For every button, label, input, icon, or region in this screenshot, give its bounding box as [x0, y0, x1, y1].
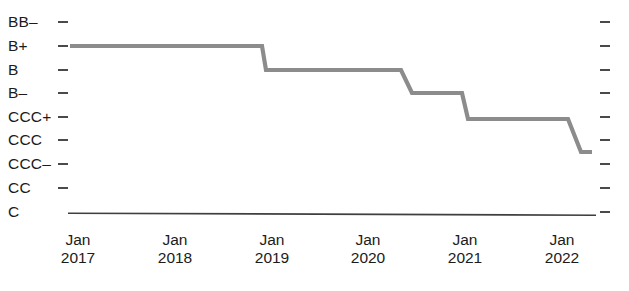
- x-axis-label-1-month: Jan: [158, 231, 192, 249]
- y-tick-mark-right-2: [600, 69, 610, 71]
- y-tick-mark-right-8: [600, 211, 610, 213]
- y-axis-label-3: B–: [8, 85, 27, 101]
- y-axis-label-4: CCC+: [8, 109, 51, 125]
- credit-rating-step-chart: BB– B+ B B– CCC+ CCC CCC– CC C Jan 2017 …: [0, 0, 629, 291]
- x-axis-label-2-month: Jan: [255, 231, 289, 249]
- y-tick-mark-right-6: [600, 163, 610, 165]
- y-tick-mark-left-2: [58, 69, 68, 71]
- x-axis-baseline: [68, 213, 596, 215]
- y-axis-label-0: BB–: [8, 14, 38, 30]
- y-tick-mark-left-0: [58, 21, 68, 23]
- x-axis-label-3: Jan 2020: [351, 231, 385, 268]
- x-axis-label-1-year: 2018: [158, 249, 192, 267]
- y-axis-label-2: B: [8, 62, 19, 78]
- y-tick-mark-right-5: [600, 139, 610, 141]
- x-axis-label-4-year: 2021: [448, 249, 482, 267]
- x-axis-label-4-month: Jan: [448, 231, 482, 249]
- y-axis-label-1: B+: [8, 38, 28, 54]
- y-tick-mark-left-4: [58, 116, 68, 118]
- y-tick-mark-left-7: [58, 187, 68, 189]
- y-tick-mark-right-7: [600, 187, 610, 189]
- x-axis-label-2-year: 2019: [255, 249, 289, 267]
- y-tick-mark-left-6: [58, 163, 68, 165]
- x-axis-label-3-year: 2020: [351, 249, 385, 267]
- y-tick-mark-left-3: [58, 92, 68, 94]
- x-axis-label-5-year: 2022: [545, 249, 579, 267]
- x-axis-label-5: Jan 2022: [545, 231, 579, 268]
- x-axis-label-1: Jan 2018: [158, 231, 192, 268]
- x-axis-label-3-month: Jan: [351, 231, 385, 249]
- y-axis-label-6: CCC–: [8, 156, 51, 172]
- rating-step-line: [70, 46, 592, 152]
- y-axis-label-8: C: [8, 204, 19, 220]
- x-axis-label-4: Jan 2021: [448, 231, 482, 268]
- y-tick-mark-left-1: [58, 45, 68, 47]
- y-axis-label-7: CC: [8, 180, 31, 196]
- y-tick-mark-right-1: [600, 45, 610, 47]
- y-tick-mark-right-3: [600, 92, 610, 94]
- x-axis-label-0: Jan 2017: [61, 231, 95, 268]
- y-tick-mark-right-0: [600, 21, 610, 23]
- y-tick-mark-left-5: [58, 139, 68, 141]
- y-tick-mark-right-4: [600, 116, 610, 118]
- y-axis-label-5: CCC: [8, 132, 42, 148]
- x-axis-label-0-year: 2017: [61, 249, 95, 267]
- x-axis-label-0-month: Jan: [61, 231, 95, 249]
- x-axis-label-5-month: Jan: [545, 231, 579, 249]
- x-axis-label-2: Jan 2019: [255, 231, 289, 268]
